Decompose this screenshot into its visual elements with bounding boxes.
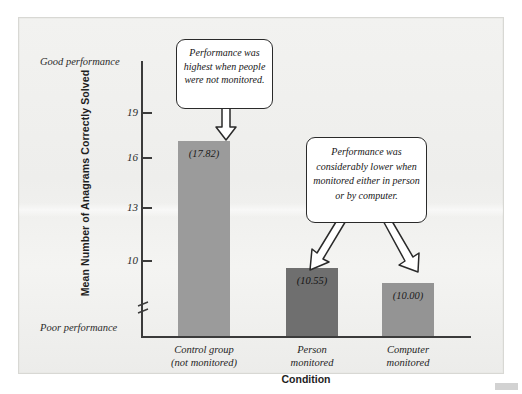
x-tick-label-line1: Computer — [348, 343, 468, 356]
y-tick-label-19: 19 — [98, 106, 138, 118]
bar-value-label: (10.00) — [382, 290, 434, 301]
page-corner-mark — [495, 383, 518, 390]
callout-arrow-down-icon — [214, 107, 238, 143]
x-axis-line — [141, 336, 471, 338]
y-axis-title: Mean Number of Anagrams Correctly Solved — [79, 68, 91, 298]
callout-arrow-down-left-icon — [307, 217, 355, 273]
y-tick-label-16: 16 — [98, 151, 138, 163]
x-axis-title: Condition — [241, 373, 371, 385]
y-tick-label-19-wrap: 19 — [90, 106, 138, 118]
bar-control-group[interactable]: (17.82) — [178, 141, 230, 336]
y-tick-mark-16 — [143, 157, 152, 159]
y-axis-bottom-label: Poor performance — [40, 322, 117, 333]
x-tick-label-line2: (not monitored) — [144, 356, 264, 369]
callout-arrow-down-right-icon — [373, 217, 425, 273]
y-tick-label-13: 13 — [98, 201, 138, 213]
x-tick-label-computer-monitored: Computer monitored — [348, 343, 468, 369]
x-tick-label-line1: Control group — [144, 343, 264, 356]
chart-page: 19 16 13 10 Good performance Poor perfor… — [0, 0, 522, 394]
y-axis-break-icon — [137, 299, 149, 317]
callout-lower-performance: Performance was considerably lower when … — [306, 137, 427, 223]
x-tick-label-line2: monitored — [348, 356, 468, 369]
x-tick-label-control-group: Control group (not monitored) — [144, 343, 264, 369]
bar-computer-monitored[interactable]: (10.00) — [382, 283, 434, 336]
y-axis-line — [141, 61, 143, 338]
plot-area: 19 16 13 10 Good performance Poor perfor… — [18, 17, 502, 372]
y-tick-label-13-wrap: 13 — [90, 201, 138, 213]
y-axis-top-label: Good performance — [40, 56, 120, 67]
y-tick-mark-19 — [143, 112, 152, 114]
bar-value-label: (10.55) — [286, 275, 338, 286]
y-tick-label-16-wrap: 16 — [90, 151, 138, 163]
y-tick-mark-13 — [143, 207, 152, 209]
bar-value-label: (17.82) — [178, 148, 230, 159]
y-tick-label-10-wrap: 10 — [90, 254, 138, 266]
callout-highest-performance: Performance was highest when people were… — [176, 39, 273, 109]
y-tick-mark-10 — [143, 260, 152, 262]
y-tick-label-10: 10 — [98, 254, 138, 266]
bar-person-monitored[interactable]: (10.55) — [286, 268, 338, 336]
